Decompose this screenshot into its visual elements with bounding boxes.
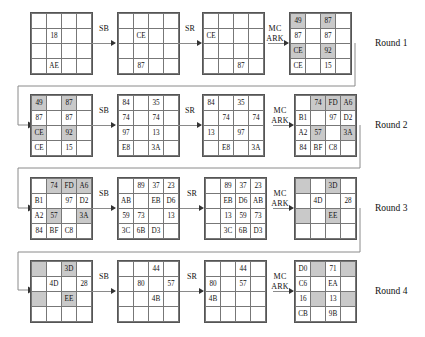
state-row: B197D2 xyxy=(32,194,92,209)
state-cell xyxy=(326,194,341,209)
state-row: E83A xyxy=(204,141,264,156)
state-cell: 92 xyxy=(62,126,77,141)
state-row xyxy=(206,307,266,322)
state-cell: 73 xyxy=(251,209,266,224)
state-cell xyxy=(77,29,92,44)
state-cell xyxy=(47,262,62,277)
state-cell xyxy=(306,59,321,74)
state-cell: C8 xyxy=(326,141,341,156)
state-row: 135973 xyxy=(206,209,266,224)
state-row: D071 xyxy=(296,262,356,277)
state-cell xyxy=(119,14,134,29)
op-label-sr-r3: SR xyxy=(180,189,204,198)
state-row: 84BFC8 xyxy=(32,224,92,239)
state-cell xyxy=(219,14,234,29)
state-cell: 13 xyxy=(326,292,341,307)
state-cell: CE xyxy=(32,126,47,141)
state-cell: 15 xyxy=(62,141,77,156)
state-cell xyxy=(219,59,234,74)
state-cell xyxy=(249,126,264,141)
state-grid-r3-sr: 893723EBD6AB1359733C6BD3 xyxy=(204,177,267,240)
state-cell: D6 xyxy=(164,194,179,209)
state-row: AE xyxy=(32,59,92,74)
state-cell xyxy=(236,292,251,307)
state-cell xyxy=(311,224,326,239)
state-cell: 16 xyxy=(296,292,311,307)
state-cell: 80 xyxy=(206,277,221,292)
state-cell xyxy=(77,14,92,29)
op-label-sb-r2: SB xyxy=(92,106,116,115)
state-cell: 84 xyxy=(119,96,134,111)
state-grid-r1-input: 18AE xyxy=(30,12,93,75)
state-cell xyxy=(206,224,221,239)
state-cell xyxy=(119,277,134,292)
state-cell: 3C xyxy=(119,224,134,239)
state-grid-r2-mc-ark: 74FDA6B197D2A2573A84BFC8 xyxy=(294,94,357,157)
state-cell: 9B xyxy=(326,307,341,322)
state-row: CE xyxy=(204,29,264,44)
state-cell: B1 xyxy=(296,111,311,126)
state-cell: 57 xyxy=(164,277,179,292)
state-cell xyxy=(134,262,149,277)
state-row xyxy=(119,307,179,322)
state-cell: C8 xyxy=(62,224,77,239)
state-cell: 87 xyxy=(291,29,306,44)
state-row: 8057 xyxy=(119,277,179,292)
op-label-mc-r1: MC xyxy=(261,24,289,34)
state-cell xyxy=(164,14,179,29)
state-cell xyxy=(119,44,134,59)
state-cell: 3A xyxy=(249,141,264,156)
state-row: 87 xyxy=(119,59,179,74)
state-row: E83A xyxy=(119,141,179,156)
arrow-r1-sb xyxy=(92,43,115,44)
state-cell: 3C xyxy=(221,224,236,239)
op-label-sr-r1: SR xyxy=(178,24,202,33)
state-cell: CE xyxy=(134,29,149,44)
arrow-r2-sr xyxy=(178,125,201,126)
state-row: 44 xyxy=(206,262,266,277)
state-cell xyxy=(206,262,221,277)
state-grid-r2-sr: 843574741397E83A xyxy=(202,94,265,157)
state-cell xyxy=(204,141,219,156)
state-grid-r2-input: 49878787CE92CE15 xyxy=(30,94,93,157)
round-label-2: Round 2 xyxy=(375,120,407,130)
state-cell xyxy=(32,14,47,29)
state-grid-r1-mc-ark: 49878787CE92CE15 xyxy=(289,12,352,75)
state-row xyxy=(296,224,356,239)
arrow-r3-sr xyxy=(180,208,203,209)
state-cell: 13 xyxy=(149,126,164,141)
arrow-r3-mc-ark xyxy=(273,208,293,209)
state-cell xyxy=(62,277,77,292)
state-cell xyxy=(77,96,92,111)
state-cell: 6B xyxy=(134,224,149,239)
state-row: 893723 xyxy=(119,179,179,194)
state-cell: 74 xyxy=(47,179,62,194)
state-cell xyxy=(336,59,351,74)
state-cell: 37 xyxy=(149,179,164,194)
state-row: EBD6AB xyxy=(206,194,266,209)
state-cell xyxy=(221,277,236,292)
state-cell: 3A xyxy=(77,209,92,224)
state-cell xyxy=(341,292,356,307)
state-cell xyxy=(149,14,164,29)
state-cell xyxy=(32,277,47,292)
state-cell xyxy=(77,59,92,74)
state-cell xyxy=(234,111,249,126)
arrow-r1-mc-ark xyxy=(268,43,288,44)
state-cell xyxy=(134,44,149,59)
state-cell: 89 xyxy=(134,179,149,194)
state-row: 74FDA6 xyxy=(32,179,92,194)
state-cell: 4D xyxy=(311,194,326,209)
state-cell: 44 xyxy=(236,262,251,277)
state-cell: 84 xyxy=(32,224,47,239)
state-cell: 13 xyxy=(221,209,236,224)
state-cell: 71 xyxy=(326,262,341,277)
state-cell xyxy=(77,126,92,141)
state-cell xyxy=(62,29,77,44)
state-cell: 57 xyxy=(47,209,62,224)
state-cell xyxy=(311,307,326,322)
state-cell: 13 xyxy=(164,209,179,224)
state-cell: 92 xyxy=(321,44,336,59)
state-cell xyxy=(119,29,134,44)
state-cell xyxy=(47,307,62,322)
